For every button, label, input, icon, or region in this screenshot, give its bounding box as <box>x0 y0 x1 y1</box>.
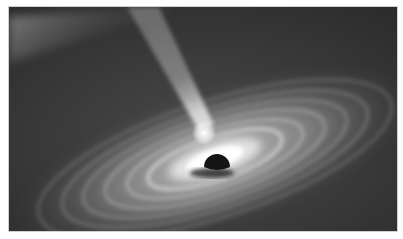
black-hole-illustration <box>8 6 398 232</box>
black-hole-artwork <box>9 7 398 232</box>
jet-base-glow <box>192 121 216 145</box>
